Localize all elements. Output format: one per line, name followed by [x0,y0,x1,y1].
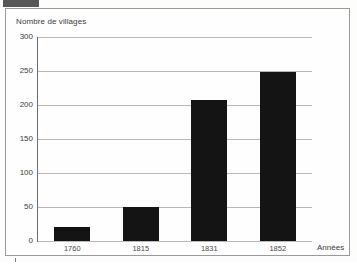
bar [54,227,90,241]
gridline [38,37,312,38]
gridline [38,241,312,242]
bar [191,100,227,241]
y-axis-tick-labels: 050100150200250300 [0,0,33,267]
x-axis-tick-label: 1852 [248,244,308,253]
plot-area [38,37,312,241]
bar [260,72,296,241]
x-axis-tick-label: 1760 [42,244,102,253]
y-axis-tick-label: 0 [29,236,33,245]
y-axis-tick-label: 150 [20,134,33,143]
page-bottom-margin [0,262,357,267]
y-axis-tick-label: 250 [20,66,33,75]
y-axis-tick-label: 200 [20,100,33,109]
y-axis-tick-label: 300 [20,32,33,41]
x-axis-tick-label: 1815 [111,244,171,253]
bar [123,207,159,241]
y-axis-tick-label: 100 [20,168,33,177]
y-axis-tick-label: 50 [24,202,33,211]
x-axis-tick-label: 1831 [179,244,239,253]
scanned-page: Nombre de villages 050100150200250300 An… [0,0,357,267]
x-axis-title: Années [317,243,344,252]
